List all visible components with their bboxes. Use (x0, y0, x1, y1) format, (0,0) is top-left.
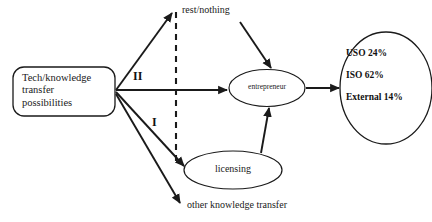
diagram-vector-layer (0, 0, 432, 222)
edge-source-to-licensing (116, 92, 184, 166)
edge-source-to-rest-nothing (116, 13, 172, 90)
outcomes-label-group: USO 24% ISO 62% External 14% (346, 48, 426, 102)
entrepreneur-ellipse-shape (229, 70, 305, 107)
diagram-canvas: Tech/knowledge transfer possibilities en… (0, 0, 432, 222)
outcome-item-external: External 14% (346, 92, 426, 102)
outcome-item-uso: USO 24% (346, 48, 426, 58)
edge-rest-nothing-to-entrepreneur (240, 22, 271, 68)
source-box-shape (13, 67, 115, 116)
outcome-item-iso: ISO 62% (346, 70, 426, 80)
edge-source-to-other-transfer (116, 94, 180, 203)
edge-licensing-to-entrepreneur (261, 108, 269, 153)
licensing-ellipse-shape (184, 151, 282, 189)
